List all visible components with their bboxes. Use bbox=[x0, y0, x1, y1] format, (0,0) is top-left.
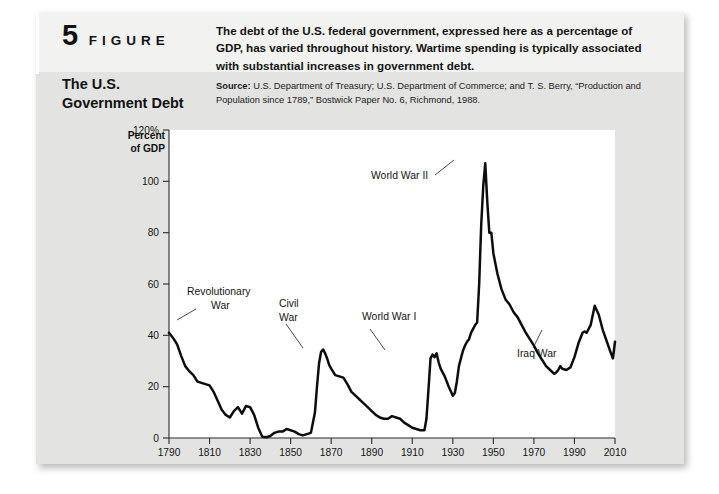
annotation-leader-line bbox=[533, 330, 542, 348]
annotation-label-line-2: War bbox=[211, 300, 230, 311]
chart-region: Percent of GDP 020406080100120% 17901810… bbox=[36, 117, 684, 464]
figure-title-line-1: The U.S. bbox=[62, 75, 222, 94]
annotation-label: World War I bbox=[362, 311, 416, 322]
annotation-leader-line bbox=[286, 324, 303, 348]
annotation-label: Civil bbox=[279, 298, 299, 309]
x-tick-label: 1950 bbox=[482, 447, 505, 458]
source-text: U.S. Department of Treasury; U.S. Depart… bbox=[216, 81, 641, 105]
y-tick-label: 0 bbox=[153, 433, 159, 444]
figure-title-line-2: Government Debt bbox=[62, 94, 222, 113]
y-tick-label: 80 bbox=[148, 227, 160, 238]
x-tick-label: 1890 bbox=[360, 447, 383, 458]
x-tick-label: 2010 bbox=[604, 447, 627, 458]
y-tick-label: 40 bbox=[148, 330, 160, 341]
debt-line-chart: 020406080100120% 17901810183018501870189… bbox=[36, 117, 684, 464]
annotation-leader-line bbox=[435, 160, 454, 175]
y-tick-label: 120% bbox=[133, 125, 159, 136]
x-tick-label: 1970 bbox=[523, 447, 546, 458]
figure-caption: The debt of the U.S. federal government,… bbox=[216, 22, 656, 74]
annotation-label: Iraq War bbox=[517, 348, 557, 359]
x-tick-label: 1910 bbox=[401, 447, 424, 458]
x-tick-label: 1790 bbox=[158, 447, 181, 458]
y-tick-label: 60 bbox=[148, 279, 160, 290]
annotation-label: Revolutionary bbox=[187, 286, 251, 297]
y-axis-tick-group: 020406080100120% bbox=[133, 125, 169, 444]
x-tick-label: 1990 bbox=[563, 447, 586, 458]
x-tick-label: 1930 bbox=[441, 447, 464, 458]
x-axis-tick-group: 1790181018301850187018901910193019501970… bbox=[158, 438, 627, 458]
y-tick-label: 20 bbox=[148, 381, 160, 392]
figure-number: 5 bbox=[62, 21, 78, 50]
annotation-leader-line bbox=[177, 309, 196, 320]
annotation-group: RevolutionaryWarCivilWarWorld War IWorld… bbox=[177, 160, 557, 359]
page-title: The U.S. Government Debt bbox=[62, 75, 222, 113]
x-tick-label: 1830 bbox=[239, 447, 262, 458]
source-label: Source: bbox=[216, 81, 251, 91]
figure-page: 5 FIGURE The U.S. Government Debt The de… bbox=[0, 0, 719, 494]
figure-banner: 5 FIGURE bbox=[62, 21, 170, 50]
annotation-leader-line bbox=[370, 329, 385, 350]
annotation-label-line-2: War bbox=[279, 312, 298, 323]
figure-source: Source: U.S. Department of Treasury; U.S… bbox=[216, 80, 658, 108]
figure-word: FIGURE bbox=[89, 33, 170, 48]
x-tick-label: 1810 bbox=[198, 447, 221, 458]
figure-card: 5 FIGURE The U.S. Government Debt The de… bbox=[36, 12, 684, 464]
header-notch bbox=[36, 12, 39, 74]
x-tick-label: 1850 bbox=[279, 447, 302, 458]
y-tick-label: 100 bbox=[142, 176, 159, 187]
annotation-label: World War II bbox=[371, 170, 428, 181]
debt-series-line bbox=[169, 163, 615, 437]
x-tick-label: 1870 bbox=[320, 447, 343, 458]
